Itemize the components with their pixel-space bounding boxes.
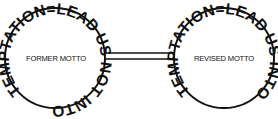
motto-diagram: TEMPTATION=LEAD US NOT INTO FORMER MOTTO… [0,0,278,119]
left-seal: TEMPTATION=LEAD US NOT INTO FORMER MOTTO [0,0,115,119]
right-seal-center-label: REVISED MOTTO [194,54,254,63]
left-seal-center-label: FORMER MOTTO [26,54,86,63]
right-seal: TEMPTATION=LEAD US INTO REVISED MOTTO [164,0,278,108]
